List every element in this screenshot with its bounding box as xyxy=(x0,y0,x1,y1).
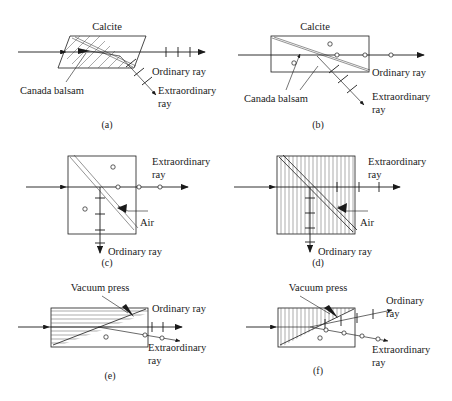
panel-c-extraordinary-ray-label-line1: Extraordinary xyxy=(152,156,211,167)
panel-f-ordinary-ray-label-line2: ray xyxy=(386,308,400,319)
panel-c-air-gap-layer xyxy=(70,155,138,230)
panel-f-extraordinary-ray-label-line1: Extraordinary xyxy=(372,344,431,355)
panel-b-canada-balsam-layer xyxy=(272,37,370,71)
panel-e-vacuum-press-leader xyxy=(102,296,128,313)
panel-a-extraordinary-ray-label-line2: ray xyxy=(158,98,172,109)
panel-e-caption: (e) xyxy=(104,370,115,382)
panel-b-extraordinary-ray-ticks xyxy=(329,65,357,93)
panel-f-ordinary-ray-label-line1: Ordinary xyxy=(386,295,425,306)
panel-f-axis-dot xyxy=(318,336,322,340)
panel-c-caption: (c) xyxy=(101,257,112,269)
panel-a-ordinary-ray-label: Ordinary ray xyxy=(152,66,207,77)
panel-f-vacuum-press-leader xyxy=(300,296,330,314)
optics-figure-svg: Calcite xyxy=(0,0,452,401)
panel-b-ordinary-ray-label: Ordinary ray xyxy=(372,67,427,78)
panel-d-extraordinary-ray-label-line2: ray xyxy=(368,169,382,180)
panel-a-caption: (a) xyxy=(101,119,112,131)
panel-b: Calcite Ordinary ray Extraordinary ray xyxy=(238,21,431,131)
panel-b-extraordinary-ray-label-line2: ray xyxy=(372,104,386,115)
panel-f-caption: (f) xyxy=(313,365,323,377)
panel-d-air-label: Air xyxy=(360,217,375,228)
panel-e-vacuum-press-label: Vacuum press xyxy=(71,282,130,293)
panel-a-extraordinary-ray xyxy=(120,56,156,95)
panel-b-axis-dot-upper xyxy=(328,42,332,46)
panel-d-extraordinary-ray-label-line1: Extraordinary xyxy=(368,156,427,167)
panel-c-air-label: Air xyxy=(140,217,155,228)
panel-c-prism-body xyxy=(68,156,136,234)
panel-f-ordinary-ray xyxy=(310,310,392,327)
panel-b-caption: (b) xyxy=(312,119,324,131)
panel-b-calcite-label: Calcite xyxy=(300,21,330,32)
panel-a-canada-balsam-label: Canada balsam xyxy=(20,85,84,96)
figure-container: Calcite xyxy=(0,0,452,401)
panel-e-extraordinary-ray xyxy=(98,327,180,341)
panel-e-axis-dot xyxy=(104,335,108,339)
panel-f: Vacuum press xyxy=(246,282,431,377)
panel-d: Extraordinary ray Ordinary ray Air (d) xyxy=(234,155,427,269)
panel-e-ordinary-ray-label: Ordinary ray xyxy=(152,303,207,314)
panel-f-extraordinary-ray-label-line2: ray xyxy=(372,357,386,368)
panel-b-axis-dot-lower xyxy=(292,61,296,65)
panel-a-calcite-label: Calcite xyxy=(92,21,122,32)
panel-a-internal-arrow xyxy=(78,48,90,54)
panel-a-hatching xyxy=(52,16,165,129)
panel-a-extraordinary-ray-label-line1: Extraordinary xyxy=(158,85,217,96)
panel-d-air-gap-layer xyxy=(279,155,357,232)
panel-c-axis-dot-lower xyxy=(83,207,87,211)
panel-f-vacuum-press-label: Vacuum press xyxy=(289,282,348,293)
panel-b-canada-balsam-label: Canada balsam xyxy=(244,93,308,104)
panel-a: Calcite xyxy=(18,16,217,131)
panel-e-extraordinary-ray-label-line1: Extraordinary xyxy=(148,342,207,353)
panel-c-extraordinary-ray-label-line2: ray xyxy=(152,169,166,180)
panel-c-ordinary-ray-label: Ordinary ray xyxy=(108,246,163,257)
panel-b-canada-balsam-leader-2 xyxy=(300,66,318,90)
panel-d-caption: (d) xyxy=(312,257,324,269)
panel-c-axis-dot-upper xyxy=(111,165,115,169)
panel-b-prism-body xyxy=(271,36,369,72)
panel-b-extraordinary-ray-label-line1: Extraordinary xyxy=(372,91,431,102)
panel-e: Vacuum press Ordinary ray xyxy=(18,282,207,382)
panel-c: Extraordinary ray Ordinary ray Air (c) xyxy=(26,155,211,269)
panel-f-hatching xyxy=(281,308,353,347)
panel-e-extraordinary-ray-label-line2: ray xyxy=(148,355,162,366)
panel-d-ordinary-ray-label: Ordinary ray xyxy=(318,246,373,257)
